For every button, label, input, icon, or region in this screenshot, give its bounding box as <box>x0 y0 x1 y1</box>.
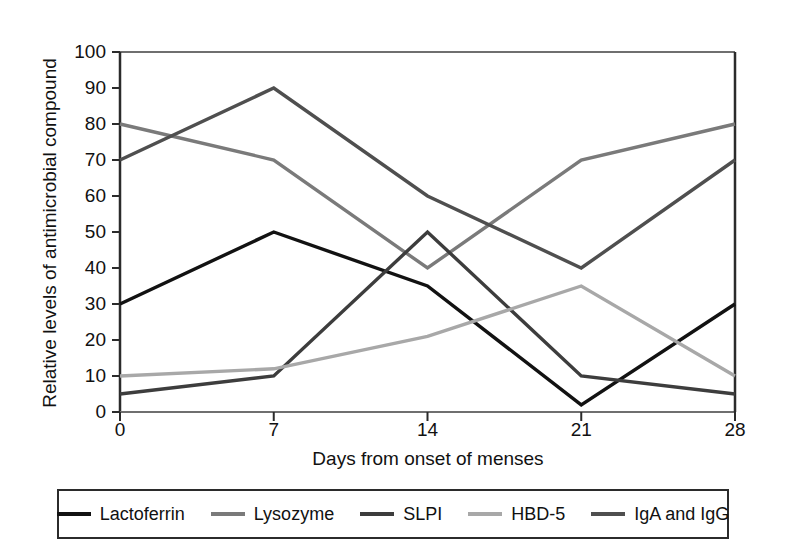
legend-item: IgA and IgG <box>578 504 742 525</box>
legend-label: Lactoferrin <box>100 504 185 525</box>
x-axis-tick-label: 0 <box>90 419 150 441</box>
series-line-slpi <box>120 232 735 394</box>
legend-item: Lactoferrin <box>44 504 198 525</box>
x-axis-title: Days from onset of menses <box>120 448 736 470</box>
chart-figure: Relative levels of antimicrobial compoun… <box>0 0 788 551</box>
x-axis-tick-label: 14 <box>398 419 458 441</box>
x-axis-tick-label: 7 <box>244 419 304 441</box>
series-line-iga-and-igg <box>120 88 735 268</box>
x-axis-tick-label: 21 <box>551 419 611 441</box>
legend-label: SLPI <box>403 504 442 525</box>
legend-item: HBD-5 <box>455 504 578 525</box>
legend-swatch-line-icon <box>57 512 91 516</box>
legend-label: Lysozyme <box>254 504 334 525</box>
legend-item: SLPI <box>347 504 455 525</box>
legend-swatch-line-icon <box>211 512 245 516</box>
chart-legend: LactoferrinLysozymeSLPIHBD-5IgA and IgG <box>57 489 729 539</box>
series-line-lactoferrin <box>120 232 735 405</box>
legend-swatch-line-icon <box>360 512 394 516</box>
legend-item: Lysozyme <box>198 504 347 525</box>
legend-label: IgA and IgG <box>634 504 729 525</box>
x-axis-tick-label: 28 <box>705 419 765 441</box>
legend-label: HBD-5 <box>511 504 565 525</box>
legend-swatch-line-icon <box>468 512 502 516</box>
legend-swatch-line-icon <box>591 512 625 516</box>
